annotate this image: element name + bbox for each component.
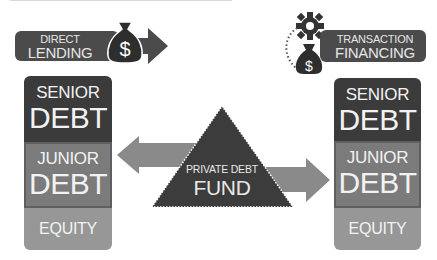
right-senior-debt: SENIOR DEBT	[334, 78, 421, 141]
left-equity: EQUITY	[24, 208, 112, 250]
right-equity: EQUITY	[334, 208, 421, 250]
fund-line2: FUND	[176, 177, 268, 198]
money-bag-icon: $	[106, 20, 144, 64]
money-bag-icon: $	[296, 44, 322, 74]
direct-lending-banner: DIRECT LENDING	[15, 31, 119, 61]
svg-text:$: $	[305, 58, 313, 74]
dotted-arc	[286, 28, 297, 68]
left-senior-debt: SENIOR DEBT	[24, 76, 112, 142]
right-junior-debt: JUNIOR DEBT	[334, 141, 421, 208]
left-junior-debt: JUNIOR DEBT	[24, 142, 112, 208]
private-debt-fund-label: PRIVATE DEBT FUND	[176, 164, 268, 198]
top-divider	[10, 0, 232, 1]
dollar-sign: $	[119, 38, 130, 60]
left-capital-stack: SENIOR DEBT JUNIOR DEBT EQUITY	[24, 76, 112, 250]
fund-line1: PRIVATE DEBT	[176, 164, 268, 175]
transaction-financing-banner: TRANSACTION FINANCING	[320, 30, 426, 62]
direct-lending-line2: LENDING	[15, 45, 105, 60]
right-capital-stack: SENIOR DEBT JUNIOR DEBT EQUITY	[334, 78, 421, 250]
transaction-financing-line2: FINANCING	[324, 45, 426, 60]
